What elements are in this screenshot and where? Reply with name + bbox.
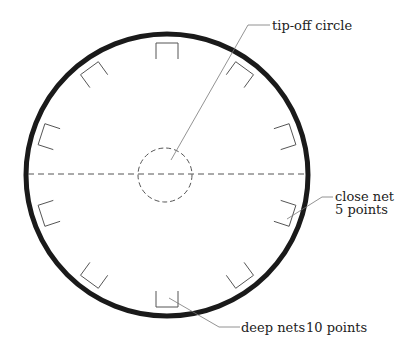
- net-2: [226, 62, 253, 88]
- net-10: [81, 62, 108, 88]
- net-7: [81, 262, 108, 288]
- game-board-diagram: tip-off circle close net 5 points deep n…: [0, 0, 404, 350]
- net-8: [38, 200, 60, 226]
- net-9: [38, 124, 60, 150]
- close-net-points-label: 5 points: [335, 202, 388, 217]
- deep-nets-points-label: 10 points: [306, 320, 367, 335]
- net-3: [274, 124, 296, 150]
- board-outer-ring: [26, 34, 308, 316]
- net-6: [156, 291, 178, 307]
- deep-nets-label: deep nets: [241, 320, 305, 335]
- tipoff-circle: [138, 148, 192, 202]
- net-5: [226, 262, 253, 288]
- net-1: [156, 43, 178, 59]
- tipoff-label: tip-off circle: [272, 18, 352, 33]
- net-4: [274, 200, 296, 226]
- close-net-leader-line: [287, 197, 333, 219]
- nets-group: [38, 43, 296, 307]
